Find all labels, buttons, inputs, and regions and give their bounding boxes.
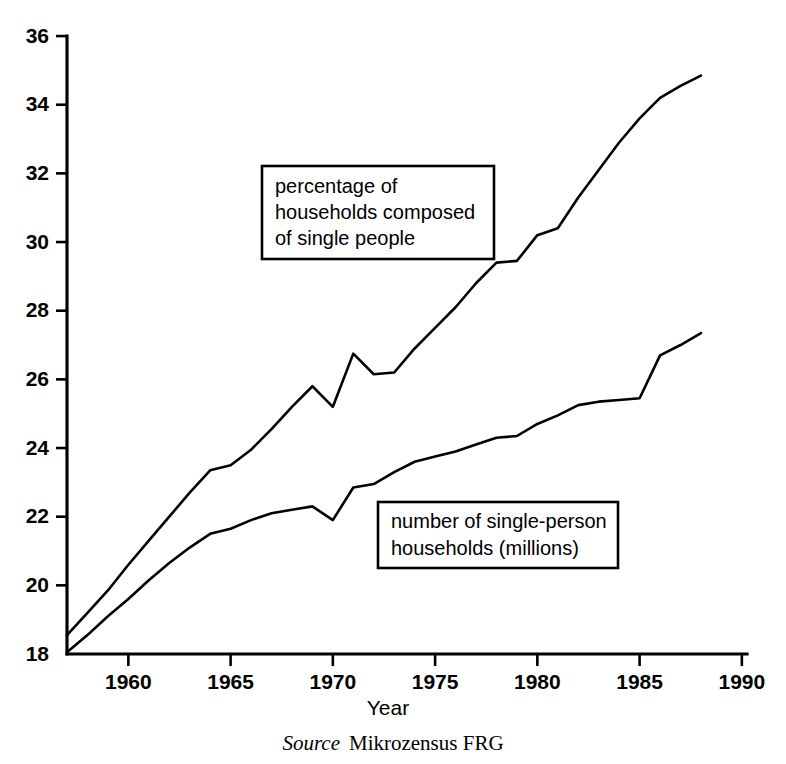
x-axis-tick-label: 1990 xyxy=(718,670,765,693)
percentage-callout-line: households composed xyxy=(275,201,475,223)
chart-figure: 18202224262830323436 1960196519701975198… xyxy=(0,0,786,764)
number-callout-line: households (millions) xyxy=(391,537,579,559)
y-axis-tick-label: 18 xyxy=(26,642,50,665)
y-axis-tick-label: 28 xyxy=(26,298,50,321)
source-caption: SourceMikrozensus FRG xyxy=(0,731,786,756)
y-axis-tick-label: 20 xyxy=(26,573,49,596)
percentage-callout-line: percentage of xyxy=(275,175,398,197)
y-axis-tick-label: 34 xyxy=(26,92,50,115)
y-axis-tick-label: 24 xyxy=(26,436,50,459)
x-axis-tick-label: 1985 xyxy=(616,670,663,693)
source-label: Source xyxy=(282,731,340,755)
x-axis-tick-label: 1970 xyxy=(309,670,356,693)
percentage-callout-line: of single people xyxy=(275,227,415,249)
number-callout-line: number of single-person xyxy=(391,510,607,532)
x-axis-tick-label: 1965 xyxy=(207,670,254,693)
y-axis-tick-label: 32 xyxy=(26,161,49,184)
source-value: Mikrozensus FRG xyxy=(349,731,504,755)
x-axis-title: Year xyxy=(367,696,409,719)
y-axis-tick-label: 26 xyxy=(26,367,49,390)
y-axis: 18202224262830323436 xyxy=(26,24,67,665)
x-axis-tick-label: 1980 xyxy=(514,670,561,693)
line-chart: 18202224262830323436 1960196519701975198… xyxy=(0,0,786,764)
y-axis-tick-label: 36 xyxy=(26,24,49,47)
x-axis: 1960196519701975198019851990 xyxy=(67,654,765,693)
x-axis-tick-label: 1975 xyxy=(412,670,459,693)
y-axis-tick-label: 30 xyxy=(26,230,49,253)
series-line-number xyxy=(67,333,701,652)
x-axis-tick-label: 1960 xyxy=(105,670,152,693)
y-axis-tick-label: 22 xyxy=(26,504,49,527)
